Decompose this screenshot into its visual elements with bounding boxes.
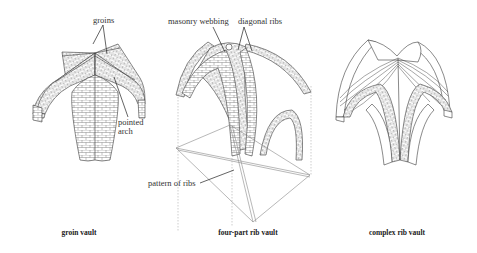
caption-four-part-rib-vault: four-part rib vault bbox=[218, 229, 277, 237]
four-part-rib-vault-drawing bbox=[176, 42, 311, 232]
vault-diagram: groins pointed arch masonry webbing diag… bbox=[0, 0, 477, 253]
callout-diagonal-ribs: diagonal ribs bbox=[238, 17, 282, 26]
callout-masonry-webbing: masonry webbing bbox=[168, 17, 229, 26]
callout-pattern-of-ribs: pattern of ribs bbox=[148, 179, 196, 188]
caption-complex-rib-vault: complex rib vault bbox=[369, 229, 425, 237]
caption-groin-vault: groin vault bbox=[61, 229, 96, 237]
groin-vault-drawing bbox=[33, 44, 145, 161]
callout-groins: groins bbox=[93, 16, 114, 25]
vault-illustrations bbox=[0, 0, 477, 253]
callout-arch: arch bbox=[118, 127, 133, 136]
complex-rib-vault-drawing bbox=[336, 40, 452, 165]
